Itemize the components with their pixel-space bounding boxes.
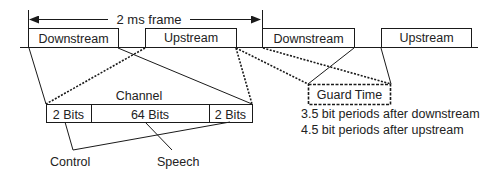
guard-note-downstream: 3.5 bit periods after downstream (301, 107, 480, 121)
guard-expansion-lines (236, 48, 391, 84)
guard-time-box: Guard Time (309, 85, 391, 105)
control-callout-line (65, 122, 230, 150)
channel-title: Channel (116, 89, 163, 103)
upstream-right-dotted-line (236, 48, 252, 104)
speech-label: Speech (157, 155, 199, 169)
channel-field-control-end: 2 Bits (215, 108, 246, 122)
guard-solid-line-left (308, 48, 354, 84)
slot-label: Downstream (38, 32, 108, 46)
frame-duration-indicator: 2 ms frame (29, 10, 263, 28)
timeline-slot-upstream-2: Upstream (382, 29, 472, 48)
control-label: Control (50, 155, 90, 169)
tdm-frame-diagram: 2 ms frame Downstream Upstream Downstrea… (0, 0, 497, 172)
channel-field-control-start: 2 Bits (53, 108, 84, 122)
guard-dotted-line-right (263, 48, 391, 84)
slot-label: Upstream (164, 31, 218, 45)
timeline-slot-downstream-2: Downstream (263, 29, 355, 48)
slot-label: Downstream (273, 32, 343, 46)
timeline-slot-downstream-1: Downstream (29, 29, 119, 48)
downstream-left-line (29, 48, 46, 104)
channel-structure: Channel 2 Bits 64 Bits 2 Bits (47, 89, 253, 123)
guard-dotted-line-left (236, 48, 308, 84)
timeline-slot-upstream-1: Upstream (146, 29, 237, 48)
channel-field-speech: 64 Bits (131, 108, 169, 122)
guard-note-upstream: 4.5 bit periods after upstream (301, 123, 464, 137)
callout-lines (65, 122, 230, 150)
slot-label: Upstream (399, 31, 453, 45)
guard-solid-line-right (381, 48, 391, 84)
frame-label: 2 ms frame (116, 12, 181, 27)
guard-time-label: Guard Time (317, 88, 382, 102)
